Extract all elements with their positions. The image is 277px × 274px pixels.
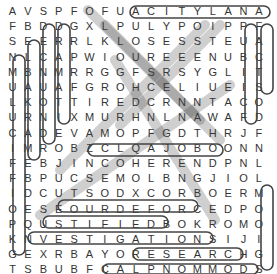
grid-cell[interactable]: Q — [20, 217, 35, 232]
grid-cell[interactable]: Y — [190, 4, 205, 19]
grid-cell[interactable]: I — [5, 186, 20, 201]
grid-cell[interactable]: N — [205, 50, 220, 65]
grid-cell[interactable]: L — [97, 19, 112, 34]
grid-cell[interactable]: A — [251, 34, 266, 49]
grid-cell[interactable]: J — [51, 156, 66, 171]
grid-cell[interactable]: M — [251, 186, 266, 201]
grid-cell[interactable]: P — [5, 217, 20, 232]
grid-cell[interactable]: A — [190, 110, 205, 125]
grid-cell[interactable]: M — [205, 262, 220, 274]
grid-cell[interactable]: E — [36, 34, 51, 49]
grid-cell[interactable]: C — [144, 80, 159, 95]
grid-cell[interactable]: G — [205, 65, 220, 80]
grid-cell[interactable]: C — [190, 202, 205, 217]
grid-cell[interactable]: D — [251, 110, 266, 125]
grid-cell[interactable]: T — [174, 4, 189, 19]
grid-cell[interactable]: I — [97, 232, 112, 247]
grid-cell[interactable]: O — [221, 141, 236, 156]
grid-cell[interactable]: S — [190, 34, 205, 49]
grid-cell[interactable]: R — [174, 186, 189, 201]
grid-cell[interactable]: U — [128, 50, 143, 65]
grid-cell[interactable]: R — [113, 110, 128, 125]
grid-cell[interactable]: C — [144, 4, 159, 19]
grid-cell[interactable]: U — [205, 80, 220, 95]
grid-cell[interactable]: E — [190, 50, 205, 65]
grid-cell[interactable]: I — [97, 50, 112, 65]
grid-cell[interactable]: P — [144, 262, 159, 274]
grid-cell[interactable]: O — [251, 95, 266, 110]
grid-cell[interactable]: E — [144, 156, 159, 171]
grid-cell[interactable]: F — [128, 65, 143, 80]
grid-cell[interactable]: D — [113, 186, 128, 201]
grid-cell[interactable]: E — [221, 186, 236, 201]
grid-cell[interactable]: Z — [82, 141, 97, 156]
grid-cell[interactable]: G — [251, 247, 266, 262]
word-search-grid[interactable]: AVSPFOFUACITYLANAFBDDGXLPULYPOIPPFSEERRL… — [0, 0, 277, 274]
grid-cell[interactable]: G — [67, 19, 82, 34]
grid-cell[interactable]: R — [205, 247, 220, 262]
grid-cell[interactable]: O — [128, 171, 143, 186]
grid-cell[interactable]: U — [36, 217, 51, 232]
grid-cell[interactable]: N — [82, 156, 97, 171]
grid-cell[interactable]: A — [144, 141, 159, 156]
grid-cell[interactable]: Y — [159, 19, 174, 34]
grid-cell[interactable]: O — [113, 80, 128, 95]
grid-cell[interactable]: P — [128, 126, 143, 141]
grid-cell[interactable]: U — [51, 262, 66, 274]
grid-cell[interactable]: M — [236, 217, 251, 232]
grid-cell[interactable]: P — [221, 156, 236, 171]
grid-cell[interactable]: U — [5, 110, 20, 125]
grid-cell[interactable]: O — [113, 156, 128, 171]
grid-cell[interactable]: B — [159, 217, 174, 232]
grid-cell[interactable]: B — [159, 171, 174, 186]
grid-cell[interactable]: E — [174, 247, 189, 262]
grid-cell[interactable]: O — [205, 186, 220, 201]
grid-cell[interactable]: X — [67, 110, 82, 125]
grid-cell[interactable]: N — [174, 110, 189, 125]
grid-cell[interactable]: G — [159, 126, 174, 141]
grid-cell[interactable]: I — [251, 232, 266, 247]
grid-cell[interactable]: L — [205, 4, 220, 19]
grid-cell[interactable]: G — [113, 232, 128, 247]
grid-cell[interactable]: L — [82, 34, 97, 49]
grid-cell[interactable]: T — [5, 262, 20, 274]
grid-cell[interactable]: E — [221, 80, 236, 95]
grid-cell[interactable]: O — [113, 50, 128, 65]
grid-cell[interactable]: S — [36, 4, 51, 19]
grid-cell[interactable]: A — [221, 4, 236, 19]
grid-cell[interactable]: F — [251, 126, 266, 141]
grid-cell[interactable]: T — [251, 65, 266, 80]
grid-cell[interactable]: O — [159, 202, 174, 217]
grid-cell[interactable]: T — [51, 95, 66, 110]
grid-cell[interactable]: X — [36, 247, 51, 262]
grid-cell[interactable]: A — [20, 80, 35, 95]
grid-cell[interactable]: E — [20, 247, 35, 262]
grid-cell[interactable]: S — [82, 186, 97, 201]
grid-cell[interactable]: S — [20, 262, 35, 274]
grid-cell[interactable]: T — [144, 232, 159, 247]
grid-cell[interactable]: B — [20, 171, 35, 186]
grid-cell[interactable]: B — [190, 186, 205, 201]
grid-cell[interactable]: C — [144, 186, 159, 201]
grid-cell[interactable]: N — [251, 141, 266, 156]
grid-cell[interactable]: J — [159, 141, 174, 156]
grid-cell[interactable]: U — [113, 4, 128, 19]
grid-cell[interactable]: R — [236, 186, 251, 201]
grid-cell[interactable]: S — [174, 65, 189, 80]
grid-cell[interactable]: E — [97, 171, 112, 186]
grid-cell[interactable]: E — [159, 34, 174, 49]
grid-cell[interactable]: O — [205, 141, 220, 156]
grid-cell[interactable]: L — [221, 65, 236, 80]
grid-cell[interactable]: M — [20, 141, 35, 156]
grid-cell[interactable]: E — [51, 202, 66, 217]
grid-cell[interactable]: E — [128, 217, 143, 232]
grid-cell[interactable]: R — [20, 110, 35, 125]
grid-cell[interactable]: J — [236, 232, 251, 247]
grid-cell[interactable]: S — [144, 34, 159, 49]
grid-cell[interactable]: S — [5, 34, 20, 49]
grid-cell[interactable]: O — [251, 202, 266, 217]
grid-cell[interactable]: I — [205, 19, 220, 34]
grid-cell[interactable]: O — [221, 262, 236, 274]
grid-cell[interactable]: A — [51, 50, 66, 65]
grid-cell[interactable]: U — [82, 202, 97, 217]
